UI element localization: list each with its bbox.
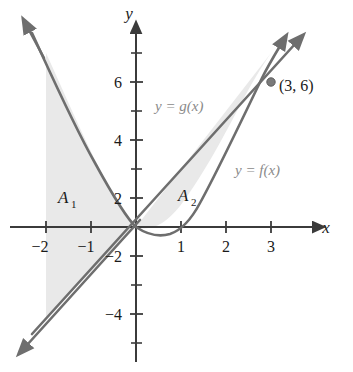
region-label-a1-letter: A [57,188,69,207]
graph-figure: x y −2 −1 1 2 3 6 4 2 −2 −4 y = g(x) y =… [0,0,353,372]
y-tick-label-4: 4 [114,132,122,149]
y-tick-label-2: 2 [114,190,122,207]
curve-label-g: y = g(x) [153,98,203,115]
curve-label-f: y = f(x) [233,162,280,179]
point-marker-3-6 [267,78,275,86]
graph-svg: x y −2 −1 1 2 3 6 4 2 −2 −4 y = g(x) y =… [0,0,353,372]
y-tick-label-6: 6 [114,74,122,91]
x-tick-label--2: −2 [31,238,48,255]
region-label-a2: A 2 [177,186,197,208]
y-axis-label: y [123,4,133,23]
region-label-a2-subscript: 2 [191,196,197,208]
curve-f-arrow-upper-left [29,30,44,58]
region-label-a2-letter: A [177,186,189,205]
y-tick-label--2: −2 [105,248,122,265]
x-tick-label--1: −1 [77,238,94,255]
shaded-region-a2 [136,53,271,228]
y-tick-label--4: −4 [105,306,122,323]
x-tick-label-1: 1 [177,238,185,255]
region-label-a1-subscript: 1 [71,198,77,210]
x-axis-label: x [321,218,330,237]
x-tick-label-3: 3 [267,238,275,255]
x-tick-label-2: 2 [222,238,230,255]
point-label-3-6: (3, 6) [279,77,314,95]
